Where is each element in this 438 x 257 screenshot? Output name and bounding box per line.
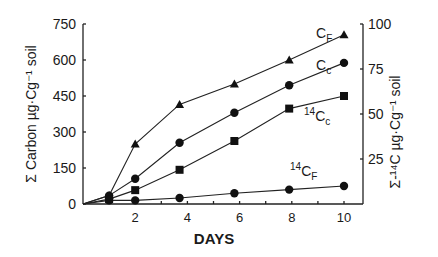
x-axis-label: DAYS <box>194 230 234 247</box>
circle-marker <box>175 194 183 202</box>
x-tick-label: 2 <box>132 210 139 225</box>
series-Cc <box>83 59 348 204</box>
y-axis-label-right: Σ-¹⁴C µg·Cg⁻¹ soil <box>387 76 403 189</box>
y-right-tick-label: 25 <box>368 151 384 167</box>
x-tick-label: 8 <box>288 210 295 225</box>
circle-marker <box>285 81 293 89</box>
x-tick-label: 4 <box>184 210 191 225</box>
y-tick-label: 450 <box>53 88 77 104</box>
triangle-marker <box>175 100 184 108</box>
y-axis-label-left: Σ Carbon µg·Cg⁻¹ soil <box>23 45 39 182</box>
triangle-marker <box>230 80 239 88</box>
series-14CF <box>83 182 348 205</box>
square-marker <box>131 186 139 194</box>
circle-marker <box>230 189 238 197</box>
series-label-14CF: 14CF <box>290 161 317 182</box>
x-tick-label: 10 <box>337 210 351 225</box>
circle-marker <box>105 196 113 204</box>
y-tick-label: 750 <box>53 16 77 32</box>
y-tick-label: 150 <box>53 160 77 176</box>
circle-marker <box>175 139 183 147</box>
chart: 0150300450600750255075100246810 CFCc14Cc… <box>0 0 438 257</box>
circle-marker <box>340 59 348 67</box>
series-label-14Cc: 14Cc <box>304 106 330 127</box>
triangle-marker <box>340 30 349 38</box>
circle-marker <box>340 182 348 190</box>
circle-marker <box>285 185 293 193</box>
y-tick-label: 600 <box>53 52 77 68</box>
series-label-CF: CF <box>316 25 332 44</box>
circle-marker <box>230 109 238 117</box>
axes: 0150300450600750255075100246810 <box>53 16 392 225</box>
y-right-tick-label: 100 <box>368 16 392 32</box>
circle-marker <box>131 196 139 204</box>
x-tick-label: 6 <box>236 210 243 225</box>
square-marker <box>176 166 184 174</box>
square-marker <box>230 137 238 145</box>
y-right-tick-label: 50 <box>368 106 384 122</box>
y-tick-label: 0 <box>68 196 76 212</box>
square-marker <box>285 105 293 113</box>
square-marker <box>340 92 348 100</box>
y-right-tick-label: 75 <box>368 61 384 77</box>
circle-marker <box>131 175 139 183</box>
y-tick-label: 300 <box>53 124 77 140</box>
triangle-marker <box>285 56 294 64</box>
